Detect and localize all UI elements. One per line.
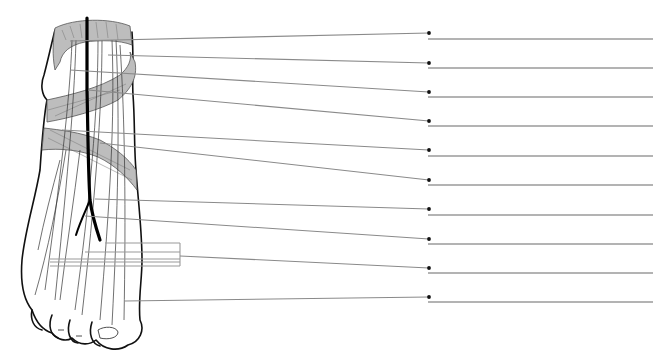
label-layer [62,31,653,302]
label-3 [70,70,653,97]
label-dot [427,295,431,299]
label-7 [95,199,653,215]
label-dot [427,31,431,35]
label-dot [427,90,431,94]
label-dot [427,207,431,211]
label-5 [62,130,653,156]
label-1 [70,31,653,41]
label-dot [427,266,431,270]
label-dot [427,148,431,152]
label-6 [100,143,653,185]
label-9 [180,256,653,273]
label-dot [427,119,431,123]
leader-line [95,199,429,209]
foot-illustration [21,18,142,349]
label-dot [427,237,431,241]
leader-line [180,256,429,268]
leader-line [88,90,429,121]
label-dot [427,178,431,182]
arcuate-artery-branch [76,200,90,235]
label-10 [125,295,653,302]
label-8 [85,216,653,244]
leader-line [85,216,429,239]
leader-line [108,55,429,63]
label-4 [88,90,653,126]
foot-labeling-diagram [0,0,670,359]
leader-line [62,130,429,150]
leader-line [125,297,429,301]
label-dot [427,61,431,65]
leader-line [100,143,429,180]
label-2 [108,55,653,68]
